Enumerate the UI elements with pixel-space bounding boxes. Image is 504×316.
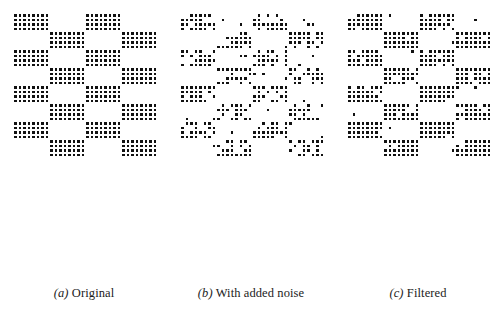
panel-with-added-noise: (b) With added noise: [167, 0, 335, 316]
dot-pattern-with-added-noise: [167, 0, 335, 282]
dot-pattern-filtered: [334, 0, 502, 282]
dot-grid-svg: [0, 0, 168, 282]
dot-grid-svg: [167, 0, 335, 282]
caption-filtered: (c) Filtered: [334, 286, 502, 301]
caption-tag-with-added-noise: (b): [198, 286, 213, 300]
caption-tag-original: (a): [54, 286, 69, 300]
figure-root: (a) Original (b) With added noise (c) Fi…: [0, 0, 504, 316]
dot-pattern-original: [0, 0, 168, 282]
caption-original: (a) Original: [0, 286, 168, 301]
caption-tag-filtered: (c): [389, 286, 403, 300]
panel-original: (a) Original: [0, 0, 168, 316]
caption-text-original: Original: [72, 286, 114, 300]
caption-text-filtered: Filtered: [407, 286, 447, 300]
caption-with-added-noise: (b) With added noise: [167, 286, 335, 301]
caption-text-with-added-noise: With added noise: [216, 286, 305, 300]
dot-grid-svg: [334, 0, 502, 282]
panel-filtered: (c) Filtered: [334, 0, 502, 316]
